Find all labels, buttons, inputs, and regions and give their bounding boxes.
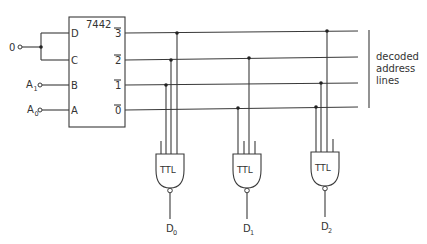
- inversion-bubble: [245, 188, 250, 193]
- gate-d2: TTL D 2: [311, 29, 339, 235]
- input-a1-subscript: 1: [34, 85, 38, 93]
- pin-label-out-1: 1: [115, 80, 121, 91]
- gate-label: TTL: [314, 163, 331, 173]
- address-line-3: [125, 31, 358, 33]
- input-terminal: [38, 83, 42, 87]
- input-a1-label: A: [26, 79, 33, 90]
- inversion-bubble: [323, 186, 328, 191]
- input-zero-label: 0: [9, 42, 15, 53]
- pin-label-a: A: [71, 105, 78, 116]
- decoded-address-bracket: decoded address lines: [369, 30, 419, 108]
- bracket-label-line-1: decoded: [376, 51, 419, 62]
- pin-label-out-3: 3: [115, 28, 121, 39]
- gate-label: TTL: [236, 165, 253, 175]
- junction-dot: [39, 45, 43, 49]
- pin-label-c: C: [71, 55, 78, 66]
- output-subscript-d2: 2: [328, 227, 332, 235]
- junction-dot: [247, 56, 251, 60]
- junction-dot: [164, 83, 168, 87]
- inversion-bubble: [168, 188, 173, 193]
- junction-dot: [319, 81, 323, 85]
- junction-dot: [236, 106, 240, 110]
- junction-dot: [169, 58, 173, 62]
- decoder-diagram: 7442 D C B A 3 2 1 0 0 A 1 A 0: [0, 0, 427, 244]
- address-lines: [125, 31, 358, 110]
- output-subscript-d1: 1: [250, 229, 254, 237]
- pin-label-out-0: 0: [115, 105, 121, 116]
- address-line-0: [125, 107, 358, 110]
- gate-d0: TTL D 0: [156, 31, 184, 237]
- bracket-label-line-2: address: [376, 63, 415, 74]
- bracket-label-line-3: lines: [376, 75, 399, 86]
- pin-label-b: B: [71, 80, 78, 91]
- junction-dot: [175, 31, 179, 35]
- input-terminal: [18, 45, 22, 49]
- address-line-2: [125, 57, 358, 60]
- junction-dot: [325, 29, 329, 33]
- output-subscript-d0: 0: [173, 229, 177, 237]
- chip-7442: 7442 D C B A 3 2 1 0: [69, 17, 125, 127]
- input-wiring: 0 A 1 A 0: [9, 33, 69, 118]
- gate-label: TTL: [159, 165, 176, 175]
- pin-label-d: D: [71, 28, 79, 39]
- input-terminal: [38, 108, 42, 112]
- junction-dot: [314, 105, 318, 109]
- chip-part-number: 7442: [86, 19, 111, 30]
- pin-label-out-2: 2: [115, 55, 121, 66]
- input-a0-label: A: [27, 104, 34, 115]
- address-line-1: [125, 83, 358, 85]
